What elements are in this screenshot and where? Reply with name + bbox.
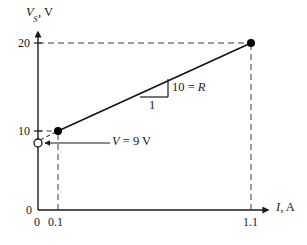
y-tick-label-10: 10 <box>18 125 30 137</box>
y-axis-label-subscript: S <box>33 14 37 24</box>
x-tick-label-0: 0 <box>34 216 40 228</box>
x-tick-label-0-1: 0.1 <box>48 216 63 228</box>
y-axis-label-unit: , V <box>38 5 53 19</box>
x-axis-label-unit: , A <box>280 200 295 214</box>
slope-rise-value: 10 <box>172 80 185 94</box>
y-tick-label-20: 20 <box>18 37 30 49</box>
open-intercept-marker <box>34 139 42 147</box>
data-line-main <box>58 43 251 131</box>
x-axis-label: I, A <box>276 201 295 214</box>
slope-rise-label: 10 = R <box>172 81 205 94</box>
intercept-value: 9 V <box>133 134 151 148</box>
intercept-equals: = <box>123 134 130 148</box>
data-point-marker-low <box>54 127 62 135</box>
y-axis-label: VS, V <box>26 6 53 21</box>
figure-canvas: VS, V I, A 20 10 0 0 0.1 1.1 10 = R 1 V … <box>0 0 307 245</box>
x-tick-label-1-1: 1.1 <box>243 216 258 228</box>
chart-plot-area <box>0 0 307 245</box>
data-point-marker-high <box>247 39 255 47</box>
intercept-symbol: V <box>112 134 120 148</box>
slope-run-label: 1 <box>149 99 155 112</box>
slope-rise-equals: = <box>188 80 195 94</box>
y-tick-label-0: 0 <box>26 204 32 216</box>
intercept-annotation-label: V = 9 V <box>112 135 151 148</box>
slope-rise-symbol: R <box>198 80 206 94</box>
